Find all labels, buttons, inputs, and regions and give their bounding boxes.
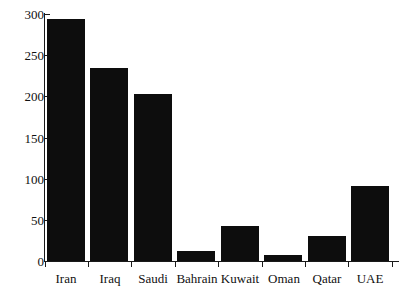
plot-area: 300 250 200 150 100 50 0 — [0, 0, 403, 300]
x-label-uae: UAE — [348, 272, 392, 285]
bar-uae — [351, 186, 389, 261]
bar-iraq — [90, 68, 128, 261]
x-tick-mark-2 — [131, 262, 132, 267]
bar-chart: 300 250 200 150 100 50 0 — [0, 0, 403, 300]
x-tick-mark-6 — [305, 262, 306, 267]
x-label-oman: Oman — [262, 272, 306, 285]
x-tick-mark-8 — [392, 262, 393, 267]
y-tick-150: 150 — [0, 138, 44, 139]
x-label-bahrain: Bahrain — [173, 272, 221, 285]
bar-bahrain — [177, 251, 215, 261]
bar-iran — [47, 19, 85, 261]
x-tick-mark-5 — [262, 262, 263, 267]
x-axis-line — [44, 261, 399, 262]
y-tick-200: 200 — [0, 96, 44, 97]
x-label-saudi: Saudi — [131, 272, 175, 285]
x-tick-mark-0 — [45, 262, 46, 267]
y-tick-250: 250 — [0, 55, 44, 56]
y-tick-0: 0 — [0, 261, 44, 262]
y-tick-mark-300 — [45, 14, 50, 15]
x-label-iraq: Iraq — [88, 272, 132, 285]
x-label-iran: Iran — [44, 272, 88, 285]
x-label-qatar: Qatar — [305, 272, 349, 285]
bar-saudi — [134, 94, 172, 261]
bar-oman — [264, 255, 302, 261]
bar-qatar — [308, 236, 346, 261]
x-tick-mark-4 — [218, 262, 219, 267]
y-tick-100: 100 — [0, 179, 44, 180]
x-label-kuwait: Kuwait — [218, 272, 262, 285]
x-tick-mark-3 — [175, 262, 176, 267]
y-tick-300: 300 — [0, 14, 44, 15]
x-tick-mark-7 — [348, 262, 349, 267]
y-tick-50: 50 — [0, 220, 44, 221]
bar-kuwait — [221, 226, 259, 261]
x-tick-mark-1 — [88, 262, 89, 267]
